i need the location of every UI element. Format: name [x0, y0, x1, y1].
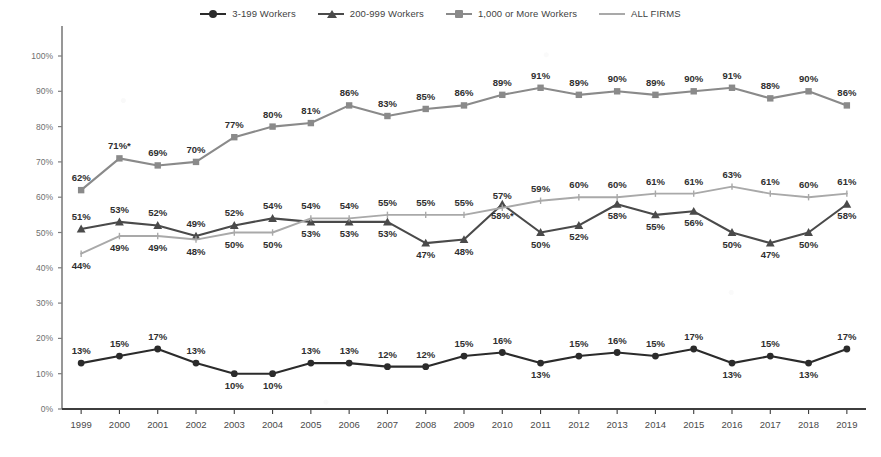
data-point-label: 12% — [378, 349, 398, 360]
data-point-label: 15% — [646, 338, 666, 349]
data-point-label: 52% — [225, 207, 245, 218]
data-point-label: 60% — [799, 179, 819, 190]
data-point-label: 17% — [148, 331, 168, 342]
data-point-marker — [116, 155, 122, 161]
data-point-marker — [499, 349, 506, 356]
data-point-marker — [346, 102, 352, 108]
data-point-marker — [384, 363, 391, 370]
legend-square-icon — [446, 8, 472, 19]
x-tick-label: 2000 — [109, 419, 130, 430]
data-point-label: 48% — [454, 246, 474, 257]
data-point-marker — [461, 102, 467, 108]
x-tick-label: 2011 — [530, 419, 550, 430]
data-point-label: 55% — [416, 197, 436, 208]
x-tick-label: 2003 — [224, 419, 245, 430]
data-point-label: 10% — [263, 380, 283, 391]
data-point-marker — [423, 106, 429, 112]
y-tick-label: 10% — [36, 369, 53, 379]
data-point-label: 13% — [72, 345, 92, 356]
data-point-marker — [231, 134, 237, 140]
data-point-marker — [614, 349, 621, 356]
data-point-marker — [613, 200, 622, 208]
x-tick-label: 2008 — [415, 419, 436, 430]
data-point-marker — [269, 370, 276, 377]
data-point-label: 59% — [531, 183, 551, 194]
x-tick-label: 2005 — [300, 419, 321, 430]
data-point-label: 16% — [493, 335, 513, 346]
data-point-label: 13% — [301, 345, 321, 356]
data-point-label: 61% — [684, 176, 704, 187]
data-point-label: 86% — [837, 87, 857, 98]
legend-circle-icon — [200, 8, 226, 19]
x-tick-label: 2013 — [607, 419, 628, 430]
legend-item-label: 1,000 or More Workers — [478, 8, 577, 19]
data-point-label: 88% — [761, 80, 781, 91]
x-tick-label: 2001 — [147, 419, 168, 430]
data-point-label: 52% — [569, 231, 589, 242]
legend-item-1[interactable]: 3-199 Workers — [200, 8, 295, 19]
data-point-marker — [614, 88, 620, 94]
data-point-label: 55% — [646, 221, 666, 232]
data-point-marker — [537, 360, 544, 367]
data-point-label: 55% — [378, 197, 398, 208]
data-point-marker — [844, 102, 850, 108]
y-tick-label: 40% — [36, 263, 53, 273]
y-tick-label: 100% — [31, 51, 53, 61]
data-point-label: 49% — [110, 242, 130, 253]
x-tick-label: 2010 — [492, 419, 513, 430]
data-point-label: 81% — [301, 105, 321, 116]
line-chart: 0%10%20%30%40%50%60%70%80%90%100% 199920… — [0, 0, 881, 457]
series-group — [77, 85, 852, 378]
y-tick-label: 20% — [36, 333, 53, 343]
data-point-label: 50% — [225, 239, 245, 250]
data-point-label: 89% — [569, 77, 589, 88]
y-axis-group: 0%10%20%30%40%50%60%70%80%90%100% — [31, 26, 62, 414]
data-point-marker — [842, 200, 851, 208]
data-point-label: 61% — [761, 176, 781, 187]
data-point-label: 90% — [608, 73, 628, 84]
data-point-label: 15% — [454, 338, 474, 349]
data-point-marker — [154, 346, 161, 353]
data-point-marker — [767, 353, 774, 360]
data-point-label: 90% — [684, 73, 704, 84]
legend-item-2[interactable]: 200-999 Workers — [318, 8, 424, 19]
data-point-label: 12% — [416, 349, 436, 360]
data-point-label: 69% — [148, 147, 168, 158]
data-point-label: 83% — [378, 98, 398, 109]
data-point-marker — [78, 187, 84, 193]
x-tick-label: 2002 — [185, 419, 206, 430]
data-point-label: 55% — [454, 197, 474, 208]
data-point-label: 50% — [531, 239, 551, 250]
legend-item-label: 200-999 Workers — [350, 8, 424, 19]
data-point-marker — [805, 88, 811, 94]
x-tick-label: 2014 — [645, 419, 666, 430]
legend-item-label: ALL FIRMS — [631, 8, 681, 19]
x-tick-label: 2017 — [760, 419, 781, 430]
x-tick-label: 2006 — [339, 419, 360, 430]
x-tick-label: 2004 — [262, 419, 283, 430]
data-point-marker — [116, 353, 123, 360]
data-point-label: 86% — [340, 87, 360, 98]
legend-item-4[interactable]: ALL FIRMS — [599, 8, 681, 19]
data-point-label: 10% — [225, 380, 245, 391]
data-point-label: 53% — [301, 228, 321, 239]
data-point-marker — [78, 360, 85, 367]
data-point-label: 61% — [837, 176, 857, 187]
y-tick-label: 50% — [36, 228, 53, 238]
data-label-group: 13%15%17%13%10%10%13%13%12%12%15%16%13%1… — [72, 70, 857, 391]
y-tick-label: 80% — [36, 122, 53, 132]
legend-item-3[interactable]: 1,000 or More Workers — [446, 8, 577, 19]
data-point-label: 48% — [186, 246, 206, 257]
data-point-label: 91% — [722, 70, 742, 81]
x-tick-label: 2015 — [683, 419, 704, 430]
data-point-label: 58% — [608, 210, 628, 221]
data-point-label: 57% — [493, 190, 513, 201]
data-point-label: 17% — [684, 331, 704, 342]
data-point-label: 49% — [186, 218, 206, 229]
data-point-marker — [652, 353, 659, 360]
legend-triangle-icon — [318, 8, 344, 19]
data-point-label: 58% — [837, 210, 857, 221]
data-point-label: 86% — [454, 87, 474, 98]
data-point-marker — [193, 159, 199, 165]
data-point-marker — [269, 123, 275, 129]
